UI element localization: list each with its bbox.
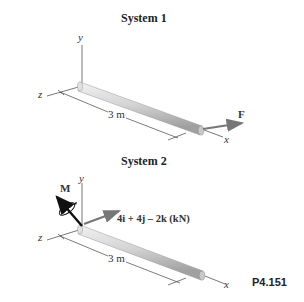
diagram-graphics [0,0,304,302]
system2-x-axis [205,276,225,284]
system1-y-label: y [78,31,83,43]
system2-moment-label: M [60,182,70,194]
system2-moment-arrow [57,197,82,226]
system2-y-label: y [79,172,84,184]
system2-rod [78,225,203,280]
problem-number: P4.151 [252,276,287,288]
system1-dimension-label: 3 m [108,108,125,120]
system1-graphic [47,45,242,140]
system1-rod [78,82,202,135]
system1-z-axis [47,86,82,96]
diagram-canvas: System 1 y z x 3 m F System 2 y z x 3 m … [0,0,304,302]
system2-z-label: z [38,231,42,243]
system2-force-arrow [84,211,119,224]
system1-title: System 1 [121,11,167,26]
system2-x-label: x [224,278,229,290]
system1-x-axis [204,130,223,137]
system2-z-axis [47,229,82,240]
system1-force-label: F [238,108,245,120]
system2-force-label: 4i + 4j – 2k (kN) [117,213,190,224]
system1-x-label: x [224,133,229,145]
system2-title: System 2 [121,154,167,169]
system1-force-arrow [203,123,242,129]
system1-z-label: z [38,88,42,100]
system2-dimension-label: 3 m [108,252,125,264]
system2-graphic [47,183,225,285]
